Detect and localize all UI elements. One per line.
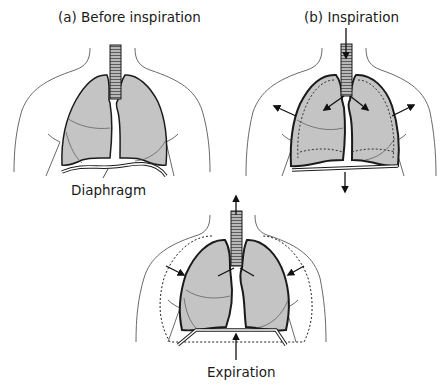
chest-out-left-arrow — [274, 106, 296, 116]
panel-b-title: (b) Inspiration — [304, 9, 399, 25]
chest-in-left-arrow — [166, 266, 184, 275]
respiration-diagram — [0, 0, 444, 386]
right-lung — [117, 75, 167, 165]
trachea — [110, 45, 121, 99]
right-lung — [241, 240, 289, 331]
panel-b-inspiration — [246, 28, 436, 192]
diaphragm-pointer — [103, 169, 108, 178]
diaphragm-label: Diaphragm — [71, 182, 146, 198]
panel-a-title: (a) Before inspiration — [58, 9, 201, 25]
chest-out-right-arrow — [392, 105, 414, 116]
left-lung — [62, 75, 112, 165]
left-lung — [180, 240, 232, 331]
panel-a-before-inspiration — [14, 45, 210, 178]
left-lung — [291, 75, 345, 166]
trachea — [231, 211, 242, 266]
panel-c-title: Expiration — [207, 364, 276, 380]
panel-c-expiration — [136, 196, 326, 360]
chest-in-right-arrow — [288, 266, 304, 275]
